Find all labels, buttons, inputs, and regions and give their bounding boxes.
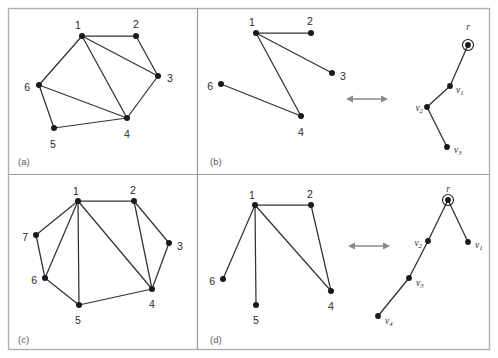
tree-node-label-v1: v1 — [475, 240, 483, 251]
graph-edge-2-4 — [311, 205, 331, 291]
tree-node-v2[interactable] — [424, 104, 430, 110]
tree-node-v3[interactable] — [406, 275, 412, 281]
tree-node-v4[interactable] — [375, 313, 381, 319]
graph-node-2[interactable] — [308, 202, 314, 208]
graph-node-3[interactable] — [166, 240, 172, 246]
tree-node-label-v1: v1 — [456, 85, 464, 96]
panel-b: 12346rv1v2v3(b) — [207, 15, 473, 167]
arrow-head-left — [348, 242, 355, 249]
graph-node-label-3: 3 — [177, 240, 183, 252]
graph-edge-4-5 — [54, 118, 127, 128]
tree-node-v1[interactable] — [447, 83, 453, 89]
graph-node-3[interactable] — [155, 73, 161, 79]
panel-a-nodes: 123456 — [24, 18, 173, 150]
graph-node-4[interactable] — [149, 286, 155, 292]
graph-node-2[interactable] — [131, 198, 137, 204]
graph-node-label-6: 6 — [31, 274, 37, 286]
tree-node-r[interactable] — [445, 197, 451, 203]
graph-node-2[interactable] — [308, 30, 314, 36]
graph-node-label-4: 4 — [298, 126, 304, 138]
graph-node-label-3: 3 — [340, 70, 346, 82]
tree-edge-v2-v3 — [427, 107, 447, 147]
graph-edge-5-6 — [39, 85, 54, 128]
panel-b-edges — [221, 33, 332, 116]
graph-edge-1-5 — [78, 201, 79, 305]
panel-b-equivalence-arrow — [346, 95, 388, 102]
graph-edge-5-6 — [45, 278, 79, 305]
panel-b-tree-edges — [427, 45, 468, 147]
panel-a: 123456(a) — [18, 18, 173, 167]
graph-node-6[interactable] — [218, 81, 224, 87]
graph-node-4[interactable] — [298, 113, 304, 119]
graph-edge-2-3 — [134, 201, 169, 243]
graph-node-label-2: 2 — [307, 188, 313, 200]
arrow-head-left — [346, 95, 353, 102]
graph-node-label-6: 6 — [209, 275, 215, 287]
tree-edge-v3-v4 — [378, 278, 409, 316]
panel-c-nodes: 1234567 — [22, 184, 183, 326]
graph-node-label-1: 1 — [73, 185, 79, 197]
graph-node-label-6: 6 — [24, 81, 30, 93]
graph-node-6[interactable] — [36, 82, 42, 88]
graph-edge-1-7 — [36, 201, 78, 235]
graph-node-label-5: 5 — [253, 314, 259, 326]
panels-layer: 123456(a)12346rv1v2v3(b)1234567(c)12456r… — [18, 15, 483, 345]
graph-node-1[interactable] — [252, 202, 258, 208]
tree-node-v1[interactable] — [465, 239, 471, 245]
graph-edge-4-6 — [39, 85, 127, 118]
tree-node-label-v2: v2 — [415, 103, 423, 114]
graph-node-5[interactable] — [253, 302, 259, 308]
tree-node-label-r: r — [446, 184, 450, 194]
graph-node-label-2: 2 — [130, 184, 136, 196]
graph-node-3[interactable] — [329, 70, 335, 76]
panel-b-tree-nodes: rv1v2v3 — [415, 22, 473, 156]
arrow-head-right — [381, 95, 388, 102]
panel-d-tree-edges — [378, 200, 468, 316]
figure-frame — [9, 9, 490, 350]
graph-node-label-1: 1 — [75, 19, 81, 31]
tree-node-label-r: r — [466, 22, 470, 32]
graph-node-2[interactable] — [133, 33, 139, 39]
tree-node-v2[interactable] — [425, 238, 431, 244]
graph-edge-1-6 — [223, 205, 255, 279]
graph-node-4[interactable] — [328, 288, 334, 294]
graph-node-1[interactable] — [253, 30, 259, 36]
graph-edge-1-4 — [255, 205, 331, 291]
graph-node-1[interactable] — [75, 198, 81, 204]
graph-edge-4-5 — [79, 289, 152, 305]
graph-node-label-5: 5 — [75, 314, 81, 326]
graph-node-1[interactable] — [79, 33, 85, 39]
graph-edge-3-4 — [127, 76, 158, 118]
graph-edge-1-6 — [45, 201, 78, 278]
graph-edge-3-4 — [152, 243, 169, 289]
panel-d-equivalence-arrow — [348, 242, 390, 249]
graph-node-6[interactable] — [42, 275, 48, 281]
graph-node-5[interactable] — [76, 302, 82, 308]
graph-node-label-3: 3 — [167, 72, 173, 84]
graph-node-4[interactable] — [124, 115, 130, 121]
graph-node-5[interactable] — [51, 125, 57, 131]
figure-svg: 123456(a)12346rv1v2v3(b)1234567(c)12456r… — [0, 0, 498, 358]
figure-outer-border — [9, 9, 490, 350]
tree-node-v3[interactable] — [444, 144, 450, 150]
graph-node-label-2: 2 — [307, 15, 313, 27]
graph-node-label-1: 1 — [249, 189, 255, 201]
tree-edge-r-v1 — [448, 200, 468, 242]
tree-node-label-v4: v4 — [385, 316, 393, 327]
panel-d-edges — [223, 205, 331, 305]
graph-edge-1-6 — [39, 36, 82, 85]
tree-node-label-v3: v3 — [454, 145, 462, 156]
graph-node-6[interactable] — [220, 276, 226, 282]
panel-a-edges — [39, 36, 158, 128]
graph-node-label-7: 7 — [22, 231, 28, 243]
graph-edge-6-7 — [36, 235, 45, 278]
graph-node-label-1: 1 — [249, 16, 255, 28]
panel-d-tree-nodes: rv1v2v3v4 — [375, 184, 483, 327]
graph-node-label-4: 4 — [124, 128, 130, 140]
tree-node-r[interactable] — [465, 42, 471, 48]
graph-node-7[interactable] — [33, 232, 39, 238]
panel-c: 1234567(c) — [18, 184, 183, 345]
graph-edge-2-4 — [134, 201, 152, 289]
panel-label-c: (c) — [18, 334, 29, 345]
figure-container: 123456(a)12346rv1v2v3(b)1234567(c)12456r… — [0, 0, 498, 358]
